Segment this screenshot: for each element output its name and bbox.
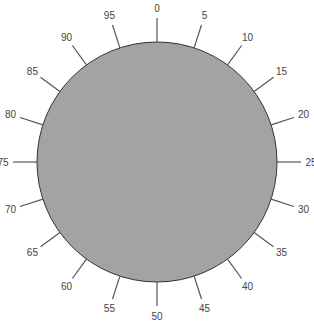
tick-mark-40	[228, 259, 242, 278]
tick-mark-35	[254, 233, 273, 247]
tick-label-55: 55	[104, 303, 116, 314]
tick-mark-80	[20, 118, 43, 125]
tick-mark-95	[113, 25, 120, 48]
tick-label-20: 20	[298, 109, 310, 120]
tick-label-35: 35	[276, 247, 288, 258]
tick-mark-20	[271, 118, 294, 125]
tick-label-15: 15	[276, 66, 288, 77]
tick-label-60: 60	[61, 281, 73, 292]
tick-label-75: 75	[0, 157, 9, 168]
tick-label-40: 40	[242, 281, 254, 292]
tick-mark-70	[20, 199, 43, 206]
tick-mark-10	[228, 46, 242, 65]
tick-label-45: 45	[199, 303, 211, 314]
tick-label-80: 80	[5, 109, 17, 120]
tick-mark-30	[271, 199, 294, 206]
tick-mark-60	[72, 259, 86, 278]
tick-mark-55	[113, 276, 120, 299]
tick-mark-65	[41, 233, 60, 247]
tick-label-65: 65	[27, 247, 39, 258]
tick-label-25: 25	[305, 157, 314, 168]
tick-label-90: 90	[61, 32, 73, 43]
tick-label-85: 85	[27, 66, 39, 77]
tick-mark-15	[254, 77, 273, 91]
tick-label-70: 70	[5, 204, 17, 215]
tick-label-0: 0	[154, 3, 160, 14]
tick-mark-45	[194, 276, 201, 299]
tick-label-5: 5	[202, 10, 208, 21]
tick-label-95: 95	[104, 10, 116, 21]
tick-label-50: 50	[151, 311, 163, 322]
tick-mark-85	[41, 77, 60, 91]
circular-dial: 05101520253035404550556065707580859095	[0, 0, 314, 323]
tick-mark-90	[72, 46, 86, 65]
tick-mark-5	[194, 25, 201, 48]
dial-face	[37, 42, 277, 282]
tick-label-10: 10	[242, 32, 254, 43]
tick-label-30: 30	[298, 204, 310, 215]
